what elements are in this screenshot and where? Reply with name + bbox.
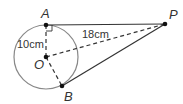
point-b: [60, 84, 65, 89]
label-o: O: [34, 57, 44, 72]
point-a: [44, 23, 49, 28]
label-p: P: [169, 7, 178, 22]
radius-ob: [46, 57, 62, 86]
radius-measurement: 10cm: [17, 38, 44, 50]
label-a: A: [40, 6, 50, 21]
label-b: B: [64, 89, 73, 104]
point-o: [44, 55, 49, 60]
tangent-diagram: A O B P 10cm 18cm: [0, 0, 183, 104]
op-measurement: 18cm: [82, 28, 109, 40]
tangent-ap: [46, 24, 165, 25]
point-p: [163, 22, 168, 27]
